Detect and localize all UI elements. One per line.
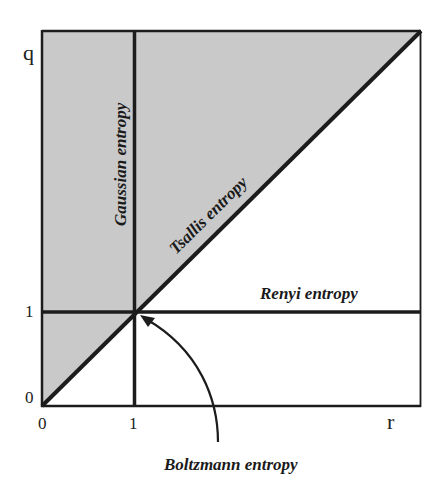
renyi-entropy-label: Renyi entropy — [259, 284, 358, 303]
y-axis-label: q — [23, 40, 34, 65]
arrowhead-icon — [140, 315, 155, 327]
x-tick-0: 0 — [38, 414, 47, 433]
y-tick-0: 0 — [25, 388, 34, 407]
entropy-parameter-diagram: q r 0 1 0 1 Gaussian entropy Tsallis ent… — [0, 0, 446, 495]
boltzmann-entropy-label: Boltzmann entropy — [163, 455, 298, 474]
x-tick-1: 1 — [129, 414, 138, 433]
x-axis-label: r — [387, 409, 395, 434]
y-tick-1: 1 — [25, 302, 34, 321]
gaussian-entropy-label: Gaussian entropy — [111, 102, 130, 226]
boltzmann-arrow — [146, 319, 218, 442]
